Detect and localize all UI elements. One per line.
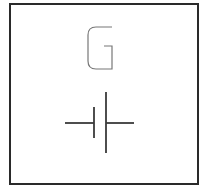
battery-cell-icon (65, 92, 134, 153)
label-g-glyph (88, 27, 112, 69)
battery-symbol-diagram (0, 0, 204, 187)
